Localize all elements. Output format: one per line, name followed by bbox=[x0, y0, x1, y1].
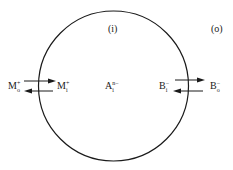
inside-region-label: (i) bbox=[108, 24, 117, 34]
outside-region-label: (o) bbox=[211, 24, 223, 34]
cation-exchange-arrows bbox=[24, 79, 56, 94]
anion-inside-label: B−i bbox=[159, 81, 172, 91]
cation-outside-label: M+o bbox=[8, 81, 23, 91]
anion-outside-label: B−o bbox=[210, 81, 223, 91]
fixed-anion-label: An−i bbox=[105, 81, 122, 91]
cation-inside-label: M+i bbox=[57, 81, 72, 91]
